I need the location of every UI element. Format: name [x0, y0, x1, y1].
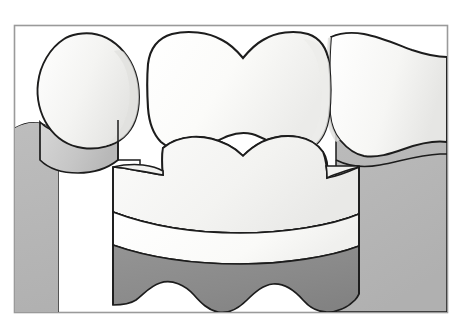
- illustration-canvas: [0, 0, 458, 333]
- dental-illustration-figure: Dental cross-section illustration of thr…: [0, 0, 458, 333]
